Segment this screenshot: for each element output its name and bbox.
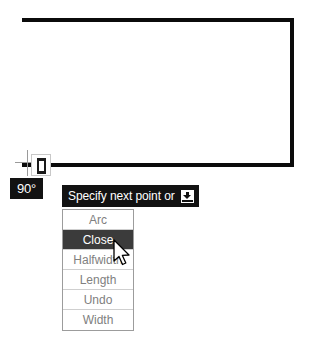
polyline-segment-right: [290, 18, 294, 167]
polyline-segment-bottom: [47, 163, 294, 167]
crosshair-vertical-line: [27, 150, 28, 176]
snap-glyph-inner: [39, 161, 44, 171]
dynamic-input-prompt[interactable]: Specify next point or: [62, 185, 199, 207]
menu-item-length[interactable]: Length: [63, 270, 133, 290]
menu-item-width[interactable]: Width: [63, 310, 133, 330]
endpoint-snap-marker-icon: [31, 154, 51, 176]
drawing-canvas[interactable]: 90° Specify next point or Arc Close Half…: [0, 0, 309, 345]
angle-tooltip: 90°: [10, 178, 43, 199]
expand-icon-arrow-head: [183, 195, 191, 199]
polyline-options-menu[interactable]: Arc Close Halfwidth Length Undo Width: [62, 209, 134, 331]
menu-item-halfwidth[interactable]: Halfwidth: [63, 250, 133, 270]
expand-icon-tray: [182, 200, 193, 202]
menu-item-undo[interactable]: Undo: [63, 290, 133, 310]
polyline-segment-top: [22, 18, 294, 22]
menu-item-close[interactable]: Close: [63, 230, 133, 250]
expand-options-icon[interactable]: [181, 190, 194, 203]
menu-item-arc[interactable]: Arc: [63, 210, 133, 230]
prompt-label: Specify next point or: [68, 185, 178, 207]
